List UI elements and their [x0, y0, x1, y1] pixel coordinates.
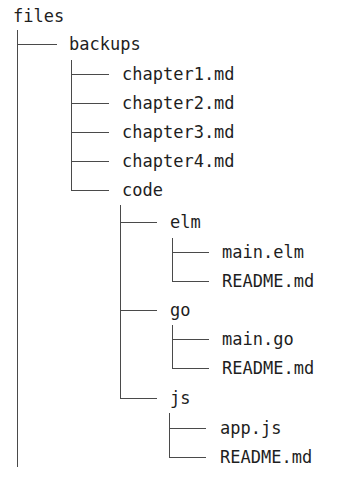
connector-code-trunk [120, 205, 121, 399]
connector-go [120, 310, 157, 311]
tree-node-js: js [170, 388, 190, 408]
connector-elm [120, 222, 157, 223]
tree-node-chapter1: chapter1.md [122, 64, 235, 84]
tree-node-backups: backups [69, 34, 141, 54]
file-tree-diagram: files backups chapter1.md chapter2.md ch… [0, 0, 343, 477]
connector-chapter2 [71, 103, 109, 104]
connector-chapter1 [71, 74, 109, 75]
connector-code [71, 190, 109, 191]
tree-node-go-readme: README.md [222, 358, 314, 378]
connector-chapter4 [71, 161, 109, 162]
tree-node-chapter3: chapter3.md [122, 122, 235, 142]
tree-node-chapter4: chapter4.md [122, 151, 235, 171]
tree-node-main-elm: main.elm [222, 242, 304, 262]
connector-js-app [169, 428, 206, 429]
connector-js [120, 398, 157, 399]
connector-elm-main [172, 252, 209, 253]
tree-node-go: go [170, 300, 190, 320]
connector-go-readme [172, 368, 209, 369]
connector-backups-trunk [71, 60, 72, 191]
connector-js-readme [169, 457, 206, 458]
connector-js-trunk [169, 413, 170, 458]
tree-node-chapter2: chapter2.md [122, 93, 235, 113]
tree-node-app-js: app.js [220, 418, 281, 438]
tree-node-code: code [122, 180, 163, 200]
connector-chapter3 [71, 132, 109, 133]
connector-elm-readme [172, 281, 209, 282]
tree-node-files: files [13, 6, 64, 26]
connector-backups [17, 44, 57, 45]
connector-elm-trunk [172, 238, 173, 282]
tree-node-js-readme: README.md [220, 447, 312, 467]
tree-node-elm-readme: README.md [222, 271, 314, 291]
connector-root-trunk [17, 30, 18, 467]
tree-node-elm: elm [170, 212, 201, 232]
connector-go-main [172, 339, 209, 340]
connector-go-trunk [172, 325, 173, 369]
tree-node-main-go: main.go [222, 329, 294, 349]
